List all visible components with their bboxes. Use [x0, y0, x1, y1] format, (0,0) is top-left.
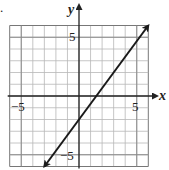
- x-axis-label: x: [158, 88, 166, 103]
- y-tick-5: 5: [69, 29, 76, 44]
- axes: [8, 5, 157, 169]
- bullet-mark: .: [0, 0, 3, 15]
- y-tick-neg5: −5: [60, 148, 74, 163]
- tick-labels: . y x 5 −5 −5 5: [0, 0, 166, 163]
- x-tick-5: 5: [132, 99, 139, 114]
- coordinate-plane: . y x 5 −5 −5 5: [0, 0, 169, 170]
- x-tick-neg5: −5: [11, 99, 25, 114]
- y-axis-label: y: [66, 2, 75, 17]
